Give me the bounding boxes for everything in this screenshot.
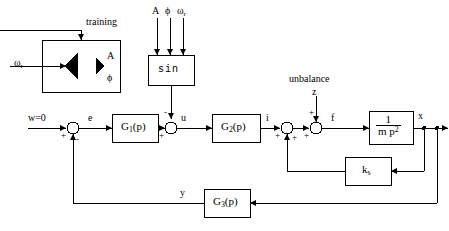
error-signal-label: e (88, 113, 92, 123)
sum3-sign-left: + (275, 131, 280, 140)
training-label: training (86, 17, 117, 27)
g3-block-label: G3(p) (213, 196, 238, 209)
reference-input-label: w=0 (28, 113, 46, 123)
sum4-sign-top: + (309, 108, 314, 117)
x-tap-node-outer (435, 126, 439, 130)
sum2-circle (165, 122, 177, 134)
block-diagram-canvas: training ωr A ϕ A ϕ ωr sin w=0 + - e G1(… (0, 0, 449, 231)
current-signal-label: i (266, 113, 269, 123)
disturbance-signal-label: z (312, 87, 316, 97)
ks-block-label: ks (362, 164, 371, 177)
sum1-sign-left: + (61, 131, 66, 140)
control-signal-label: u (181, 113, 186, 123)
x-tap-node (422, 126, 426, 130)
sum4-circle (310, 122, 322, 134)
nn-output-A-label: A (107, 51, 114, 61)
force-signal-label: f (331, 113, 334, 123)
sin-input-omegar-label: ωr (177, 6, 186, 18)
sum1-circle (67, 122, 79, 134)
nn-output-phi-label: ϕ (107, 73, 112, 83)
unbalance-label: unbalance (289, 74, 330, 84)
feedback-signal-label: y (180, 188, 185, 198)
sin-block-label: sin (158, 65, 179, 75)
g1-block-label: G1(p) (121, 121, 146, 134)
sum2-sign-left: + (159, 131, 164, 140)
sin-input-phi-label: ϕ (165, 6, 170, 16)
sum1-sign-bottom: - (76, 135, 79, 144)
sum3-sign-bottom: + (292, 133, 297, 142)
plant-block-label: 1 m p2 (376, 114, 401, 138)
omega-r-input-label: ωr (14, 58, 23, 70)
nn-fan-out (96, 58, 104, 74)
nn-fan-in (64, 52, 78, 80)
g2-block-label: G2(p) (221, 121, 246, 134)
sum4-sign-left: + (304, 131, 309, 140)
sin-input-A-label: A (152, 6, 159, 16)
sum2-sign-top: - (164, 108, 167, 117)
position-signal-label: x (418, 111, 423, 121)
